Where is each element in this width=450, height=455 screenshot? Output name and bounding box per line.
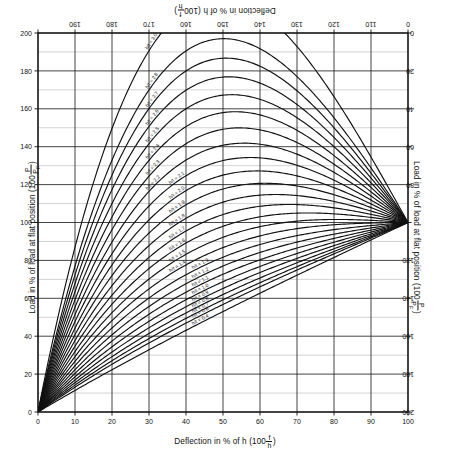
x-tick-label: 10	[71, 418, 79, 425]
x-tick-label: 90	[367, 418, 375, 425]
right-axis-tick-label: 80	[406, 182, 414, 189]
y-tick-label: 80	[24, 257, 32, 264]
top-axis-tick-label: 120	[328, 21, 340, 28]
top-axis-tick-label: 180	[106, 21, 118, 28]
x-tick-label: 20	[108, 418, 116, 425]
top-axis-tick-label: 110	[365, 21, 376, 28]
top-axis-tick-label: 0	[406, 21, 410, 28]
chart-page: Deflection in % of h (100fh) Deflection …	[0, 0, 450, 455]
x-tick-label: 80	[330, 418, 338, 425]
x-tick-label: 40	[182, 418, 190, 425]
right-axis-tick-label: 40	[406, 106, 414, 113]
y-tick-label: 60	[24, 295, 32, 302]
top-axis-tick-label: 150	[217, 21, 229, 28]
y-tick-label: 160	[20, 105, 32, 112]
x-tick-label: 0	[36, 418, 40, 425]
x-tick-label: 60	[256, 418, 264, 425]
top-axis-tick-label: 170	[143, 21, 155, 28]
y-tick-label: 0	[28, 409, 32, 416]
y-tick-label: 100	[20, 219, 32, 226]
x-tick-label: 30	[145, 418, 153, 425]
y-tick-label: 40	[24, 333, 32, 340]
top-axis-tick-label: 160	[180, 21, 192, 28]
top-axis-tick-label: 140	[254, 21, 266, 28]
y-tick-label: 120	[20, 181, 32, 188]
y-tick-label: 140	[20, 143, 32, 150]
right-axis-tick-label: 60	[406, 144, 414, 151]
curve-label-group: h/t = 3.0h/t = 2.8h/t = 2.7h/t = 2.6h/t …	[143, 32, 209, 326]
x-tick-label: 70	[293, 418, 301, 425]
x-tick-label: 100	[402, 418, 414, 425]
top-axis-tick-label: 190	[69, 21, 81, 28]
top-axis-tick-label: 130	[291, 21, 303, 28]
x-tick-label: 50	[219, 418, 227, 425]
y-tick-label: 20	[24, 371, 32, 378]
y-tick-label: 180	[20, 68, 32, 75]
right-axis-tick-label: 20	[406, 68, 414, 75]
y-tick-label: 200	[20, 30, 32, 37]
right-axis-tick-label: 0	[410, 30, 414, 37]
chart-plot: h/t = 3.0h/t = 2.8h/t = 2.7h/t = 2.6h/t …	[0, 0, 450, 455]
